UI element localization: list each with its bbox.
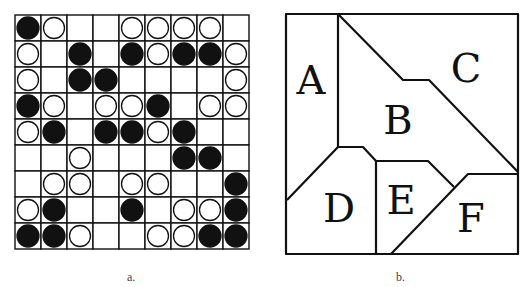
region-label-e: E [386,177,415,223]
region-label-c: C [451,45,482,91]
caption-a: a. [127,270,135,285]
region-map: ABCDEF [0,0,525,287]
region-label-d: D [323,185,355,231]
region-label-b: B [383,97,412,143]
caption-b: b. [396,270,405,285]
region-label-a: A [296,57,327,103]
region-label-f: F [457,195,485,241]
